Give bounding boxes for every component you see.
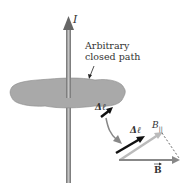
b-parallel-label: B|| — [152, 121, 163, 132]
zoom-pointer-arrow — [106, 118, 117, 140]
path-label-line1: Arbitrary — [85, 41, 129, 51]
ampere-law-diagram: I Arbitrary closed path Δℓ Δℓ B|| B — [0, 0, 193, 183]
path-label-line2: closed path — [85, 52, 140, 62]
projection-dashed-line — [162, 133, 179, 158]
diagram-graphics — [0, 0, 193, 183]
wire-lower — [66, 105, 71, 183]
b-vector-label: B — [154, 166, 162, 175]
delta-l-path-label: Δℓ — [95, 103, 106, 112]
label-pointer — [90, 66, 94, 76]
b-parallel-letter: B — [152, 120, 159, 130]
current-label: I — [73, 14, 77, 25]
b-parallel-subscript: || — [159, 125, 163, 132]
delta-l-detail-label: Δℓ — [130, 126, 141, 135]
wire-upper — [66, 28, 71, 98]
